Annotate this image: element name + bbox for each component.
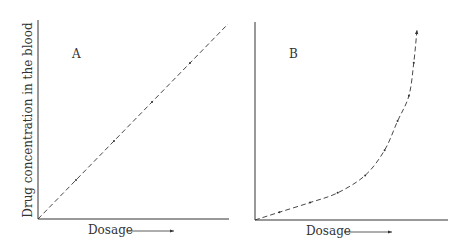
panel-a-point [151, 101, 153, 103]
panel-b-point [337, 192, 339, 194]
panel-b-point [384, 149, 386, 151]
panel-b-label: B [289, 47, 298, 61]
panel-b: B Dosage [255, 22, 448, 238]
panel-b-point [397, 120, 399, 122]
panel-b-x-label: Dosage [306, 224, 351, 238]
panel-b-line [255, 30, 417, 220]
panel-a-curve [38, 24, 228, 219]
y-axis-label: Drug concentration in the blood [21, 22, 35, 218]
panel-b-curve [255, 30, 417, 220]
panel-a-point [189, 62, 191, 64]
panel-a-point [75, 179, 77, 181]
panel-b-point [408, 95, 410, 97]
panel-a-x-label: Dosage [88, 223, 133, 237]
panel-a-label: A [71, 47, 81, 61]
figure: Drug concentration in the blood A Dosage… [0, 0, 470, 247]
panel-a: A Dosage [38, 20, 229, 237]
panel-b-point [309, 202, 311, 204]
panel-a-point [113, 140, 115, 142]
panel-b-point [413, 62, 415, 64]
panel-a-line [38, 24, 228, 219]
panel-b-point [278, 211, 280, 213]
panel-b-point [364, 174, 366, 176]
